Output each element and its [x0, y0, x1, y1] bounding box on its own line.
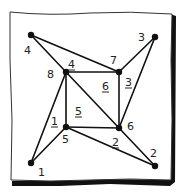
- vertex-label: 3: [138, 31, 145, 44]
- vertex-3: [152, 34, 158, 40]
- vertex-4: [28, 32, 34, 38]
- vertex-label: 6: [127, 120, 134, 133]
- vertex-label: 1: [38, 166, 45, 179]
- edge-6-5: [66, 127, 119, 128]
- vertex-1: [28, 160, 34, 166]
- vertex-2: [152, 163, 158, 169]
- graph-diagram: 12345678432165: [0, 0, 184, 194]
- vertex-label: 4: [24, 44, 31, 57]
- vertex-6: [116, 125, 122, 131]
- vertex-5: [63, 124, 69, 130]
- vertex-label: 5: [62, 133, 69, 146]
- edge-label: 2: [112, 136, 119, 149]
- edge-label: 4: [68, 58, 75, 71]
- vertex-label: 2: [150, 147, 157, 160]
- face-label: 5: [75, 105, 82, 118]
- edge-label: 3: [125, 76, 132, 89]
- vertex-label: 7: [110, 54, 117, 67]
- edge-label: 1: [51, 115, 58, 128]
- vertex-7: [116, 69, 122, 75]
- vertex-label: 8: [47, 68, 54, 81]
- face-label: 6: [102, 80, 109, 93]
